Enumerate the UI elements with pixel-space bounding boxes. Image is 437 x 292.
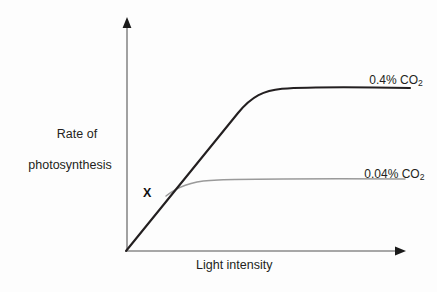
y-axis-arrowhead-icon xyxy=(123,17,132,28)
y-axis-label-line2: photosynthesis xyxy=(18,158,122,173)
x-axis xyxy=(126,247,406,256)
point-marker-x-label: X xyxy=(143,186,151,201)
series-label-high-co2-text: 0.4% CO xyxy=(369,73,418,87)
y-axis-label: Rate of photosynthesis xyxy=(18,112,122,204)
series-label-low-co2-subscript: 2 xyxy=(420,172,425,182)
x-axis-label: Light intensity xyxy=(196,258,272,273)
y-axis xyxy=(123,17,132,251)
series-label-low-co2-text: 0.04% CO xyxy=(364,167,419,181)
photosynthesis-light-intensity-figure: Rate of photosynthesis Light intensity 0… xyxy=(0,0,437,292)
series-label-low-co2: 0.04% CO2 xyxy=(351,152,424,197)
series-label-high-co2: 0.4% CO2 xyxy=(356,58,423,103)
x-axis-arrowhead-icon xyxy=(395,247,406,256)
y-axis-label-line1: Rate of xyxy=(57,127,97,141)
series-label-high-co2-subscript: 2 xyxy=(418,78,423,88)
